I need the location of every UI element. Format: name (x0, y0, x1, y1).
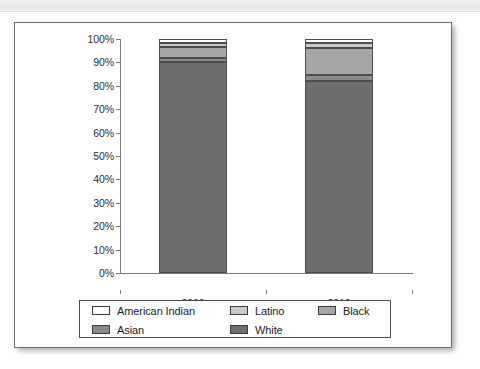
plot-area: 0%10%20%30%40%50%60%70%80%90%100%2000201… (120, 39, 412, 273)
bar-segment-white (306, 81, 372, 273)
legend-label: Black (343, 305, 369, 317)
bar-segment-black (306, 48, 372, 75)
legend-item: Black (318, 305, 369, 317)
y-axis-tick-mark (116, 62, 120, 63)
x-axis-tick-mark (266, 290, 267, 294)
legend-swatch-icon (230, 306, 248, 315)
legend-row: AsianWhite (80, 320, 390, 339)
legend-swatch-icon (318, 306, 336, 315)
bar-segment-american-indian (306, 39, 372, 43)
scanned-page: 0%10%20%30%40%50%60%70%80%90%100%2000201… (0, 0, 480, 369)
y-axis-tick-mark (116, 39, 120, 40)
figure-frame: 0%10%20%30%40%50%60%70%80%90%100%2000201… (14, 22, 452, 348)
legend-swatch-icon (92, 325, 110, 334)
x-axis-line (120, 273, 413, 274)
legend-label: Latino (255, 305, 284, 317)
y-axis-tick-mark (116, 156, 120, 157)
chart-legend: American IndianLatinoBlack AsianWhite (79, 300, 391, 338)
legend-label: White (255, 324, 283, 336)
legend-item: American Indian (92, 305, 195, 317)
legend-row: American IndianLatinoBlack (80, 301, 390, 320)
page-header-band (0, 0, 480, 12)
y-axis-tick-mark (116, 273, 120, 274)
y-axis-tick-mark (116, 203, 120, 204)
bar-segment-latino (306, 43, 372, 49)
y-axis-tick-mark (116, 109, 120, 110)
bar-segment-black (160, 47, 226, 58)
bar-segment-latino (160, 43, 226, 48)
bar-segment-asian (160, 58, 226, 63)
legend-swatch-icon (92, 306, 110, 315)
bar-segment-asian (306, 75, 372, 81)
x-axis-tick-mark (412, 290, 413, 294)
y-axis-tick-mark (116, 250, 120, 251)
legend-label: Asian (117, 324, 144, 336)
y-axis-tick-mark (116, 226, 120, 227)
bar-column-2010 (305, 39, 373, 273)
x-axis-tick-mark (120, 290, 121, 294)
y-axis-tick-mark (116, 86, 120, 87)
legend-item: White (230, 324, 283, 336)
legend-swatch-icon (230, 325, 248, 334)
legend-label: American Indian (117, 305, 195, 317)
bar-segment-american-indian (160, 39, 226, 43)
y-axis-tick-mark (116, 133, 120, 134)
bar-column-2000 (159, 39, 227, 273)
bar-segment-white (160, 62, 226, 273)
legend-item: Asian (92, 324, 144, 336)
y-axis-tick-mark (116, 179, 120, 180)
legend-item: Latino (230, 305, 284, 317)
